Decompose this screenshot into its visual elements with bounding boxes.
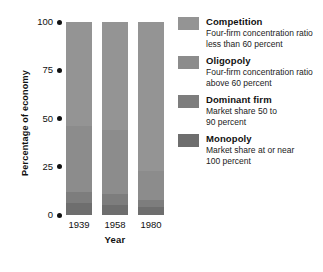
legend-item-label: Monopoly [206,133,320,144]
legend-item: MonopolyMarket share at or near100 perce… [178,133,320,167]
legend-item-description: Market share at or near [206,145,320,156]
y-axis-tick-marker-icon [57,68,62,73]
y-axis-tick: 25 [18,162,62,172]
legend-item-label: Competition [206,16,320,27]
legend-item: CompetitionFour-firm concentration ratio… [178,16,320,50]
bar-segment [138,171,164,200]
y-axis-tick-marker-icon [57,213,62,218]
y-axis-tick-label: 50 [42,114,53,124]
y-axis-tick: 100 [18,17,62,27]
y-axis-tick: 50 [18,114,62,124]
bar-segment [138,200,164,208]
bar-segment [66,126,92,192]
y-axis-tick-label: 25 [42,162,53,172]
bar-stack [66,22,92,215]
y-axis-tick-label: 75 [42,65,53,75]
y-axis-tick-marker-icon [57,164,62,169]
legend-item-description: 100 percent [206,156,320,167]
bar-segment [102,130,128,194]
bar-segment [66,22,92,126]
bar-stack [102,22,128,215]
bar-segment [66,203,92,215]
y-axis-tick-marker-icon [57,116,62,121]
x-axis-tick-label: 1980 [131,219,171,230]
legend-item-label: Oligopoly [206,55,320,66]
chart-legend: CompetitionFour-firm concentration ratio… [178,16,320,172]
bar-segment [138,207,164,215]
legend-item-description: Four-firm concentration ratio [206,28,320,39]
plot-area [66,22,164,215]
bar-segment [138,22,164,171]
legend-item-description: less than 60 percent [206,39,320,50]
x-axis-title: Year [66,234,164,245]
y-axis-tick-marker-icon [57,20,62,25]
bar-segment [66,192,92,204]
legend-color-swatch [178,134,199,147]
legend-item-description: Four-firm concentration ratio [206,67,320,78]
bar-stack [138,22,164,215]
legend-item-description: 90 percent [206,117,320,128]
x-axis-tick-label: 1939 [59,219,99,230]
legend-item-description: Market share 50 to [206,106,320,117]
legend-item-description: above 60 percent [206,78,320,89]
legend-item-label: Dominant firm [206,94,320,105]
legend-color-swatch [178,17,199,30]
y-axis-tick-label: 100 [37,17,53,27]
legend-item: OligopolyFour-firm concentration ratioab… [178,55,320,89]
y-axis-tick: 0 [18,210,62,220]
bar-segment [102,22,128,130]
y-axis-tick-label: 0 [48,210,53,220]
y-axis-tick: 75 [18,65,62,75]
bar-segment [102,205,128,215]
legend-item: Dominant firmMarket share 50 to90 percen… [178,94,320,128]
legend-color-swatch [178,95,199,108]
x-axis-tick-label: 1958 [95,219,135,230]
chart-figure: Percentage of economy 0255075100 1939195… [0,0,323,272]
legend-color-swatch [178,56,199,69]
bar-segment [102,194,128,206]
